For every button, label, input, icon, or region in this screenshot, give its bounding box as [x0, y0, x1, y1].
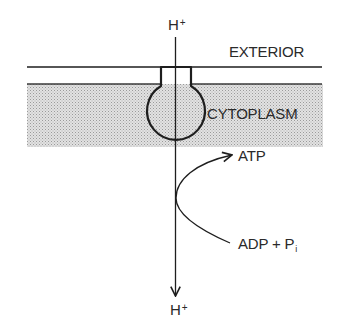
atp-synthesis-arrow: [176, 155, 232, 243]
adp-pi-text: ADP + P: [238, 235, 294, 252]
adp-pi-label: ADP + Pi: [238, 236, 297, 252]
proton-bottom-charge: +: [182, 302, 188, 313]
atp-label: ATP: [238, 148, 265, 164]
proton-top-label: H+: [168, 17, 185, 33]
cytoplasm-label: CYTOPLASM: [207, 106, 297, 122]
exterior-label: EXTERIOR: [229, 44, 304, 60]
pi-subscript: i: [295, 244, 297, 254]
proton-bottom-base: H: [170, 301, 181, 318]
proton-top-charge: +: [180, 17, 186, 28]
proton-top-base: H: [168, 16, 179, 33]
proton-bottom-label: H+: [170, 302, 187, 318]
